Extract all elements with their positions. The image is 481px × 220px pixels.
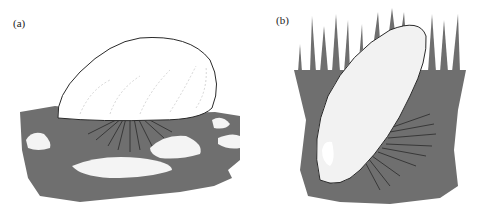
- panel-b: (b): [240, 0, 481, 220]
- mussel-on-rock-illustration: [0, 0, 240, 220]
- buried-mussel-illustration: [240, 0, 481, 220]
- panel-a: (a): [0, 0, 240, 220]
